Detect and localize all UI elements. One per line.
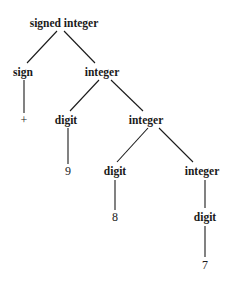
node-signed-integer: signed integer [30,17,99,30]
node-digit-3: digit [194,211,217,224]
tree-nodes: signed integer sign integer + digit inte… [13,17,219,272]
edge-root-integer [64,31,95,63]
node-digit-1: digit [55,114,78,127]
node-plus: + [21,113,28,127]
parse-tree-diagram: signed integer sign integer + digit inte… [0,0,231,286]
edge-integer-integer2 [111,80,143,111]
node-integer-1: integer [85,66,119,79]
edge-integer2-integer3 [159,128,193,162]
node-sign: sign [13,66,33,79]
node-digit-2: digit [104,165,127,178]
edge-integer-digit [70,80,99,111]
node-nine: 9 [65,164,71,178]
node-eight: 8 [112,210,118,224]
edge-integer2-digit2 [117,128,148,162]
node-integer-2: integer [129,114,163,127]
node-integer-3: integer [185,165,219,178]
node-seven: 7 [202,258,208,272]
edge-root-sign [27,31,57,63]
